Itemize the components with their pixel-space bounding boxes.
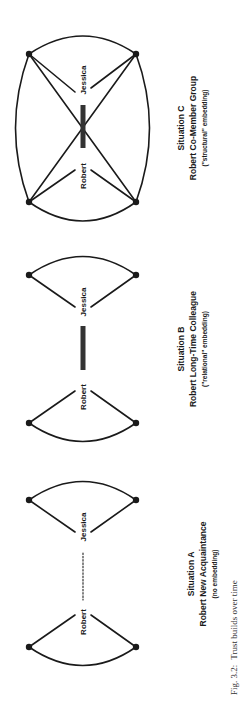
edge	[91, 54, 136, 88]
edge	[91, 391, 136, 423]
edge	[29, 275, 75, 307]
edge	[91, 615, 136, 647]
edge	[29, 391, 75, 423]
label-jessica-c: Jessica	[79, 65, 88, 94]
arc-top	[29, 482, 136, 501]
label-robert-a: Robert	[79, 609, 88, 635]
label-jessica-a: Jessica	[79, 512, 88, 541]
node	[26, 272, 32, 278]
node	[26, 51, 32, 57]
edge	[29, 170, 75, 202]
situation-a-note: (no embedding)	[211, 550, 219, 599]
node	[26, 497, 32, 503]
edge	[29, 615, 75, 647]
arc-right	[136, 54, 150, 202]
node	[133, 644, 139, 650]
node	[133, 420, 139, 426]
figure-caption: Fig. 3.2: Trust builds over time	[229, 580, 239, 695]
svg-text:Fig. 3.2: Trust builds o: Fig. 3.2: Trust builds over time	[229, 580, 239, 695]
edge	[91, 170, 136, 202]
label-jessica-b: Jessica	[79, 287, 88, 316]
arc-bottom	[29, 202, 136, 221]
node	[26, 420, 32, 426]
node	[133, 199, 139, 205]
caption-label: Fig. 3.2:	[229, 665, 239, 695]
situation-b-note: ("relational" embedding)	[201, 311, 209, 387]
edge	[29, 500, 75, 532]
edge	[91, 500, 136, 532]
node	[133, 497, 139, 503]
node	[26, 199, 32, 205]
arc-top	[29, 36, 136, 54]
edge	[91, 275, 136, 307]
situation-c-title: Situation C	[176, 106, 186, 151]
arc-bottom	[29, 647, 136, 666]
node	[133, 272, 139, 278]
situation-c-note: ("structural" embedding)	[201, 90, 209, 167]
arc-left	[16, 54, 30, 202]
situation-b-subtitle: Robert Long-Time Colleague	[188, 291, 198, 407]
situation-b-title: Situation B	[176, 327, 186, 372]
node	[133, 51, 139, 57]
node	[26, 644, 32, 650]
arc-bottom	[29, 423, 136, 442]
caption-text: Trust builds over time	[229, 580, 239, 659]
arc-top	[29, 257, 136, 276]
situation-c-subtitle: Robert Co-Member Group	[188, 76, 198, 180]
label-robert-c: Robert	[79, 163, 88, 189]
situation-a-title: Situation A	[186, 552, 196, 597]
label-robert-b: Robert	[79, 384, 88, 410]
trust-embedding-diagram: Jessica Robert Jessica Robert Jessica Ro…	[0, 0, 240, 701]
situation-a-subtitle: Robert New Acquaintance	[198, 521, 208, 626]
